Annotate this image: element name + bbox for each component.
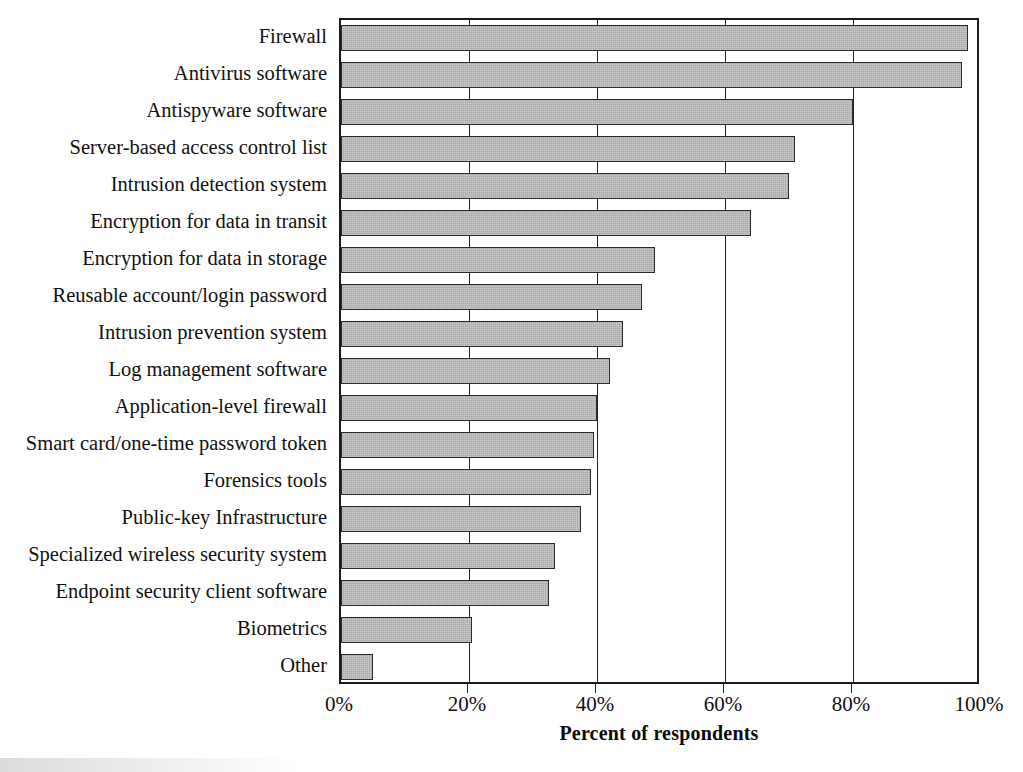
bar-row: [341, 501, 981, 538]
category-label: Other: [280, 647, 327, 684]
bar-row: [341, 353, 981, 390]
bar[interactable]: [341, 543, 555, 569]
bar-row: [341, 57, 981, 94]
bar-row: [341, 538, 981, 575]
bar-row: [341, 20, 981, 57]
category-label: Reusable account/login password: [53, 277, 327, 314]
bar-series: [341, 20, 977, 682]
category-axis-labels: FirewallAntivirus softwareAntispyware so…: [0, 18, 333, 684]
category-label: Antispyware software: [147, 92, 327, 129]
category-label: Firewall: [259, 18, 327, 55]
plot-area: [339, 18, 979, 684]
category-label: Forensics tools: [203, 462, 327, 499]
bar[interactable]: [341, 395, 597, 421]
category-label: Encryption for data in storage: [82, 240, 327, 277]
bar-row: [341, 464, 981, 501]
category-label: Intrusion prevention system: [98, 314, 327, 351]
x-tick-label: 40%: [576, 692, 615, 717]
category-label: Smart card/one-time password token: [26, 425, 327, 462]
scan-artifact: [0, 758, 300, 772]
x-tick-label: 20%: [448, 692, 487, 717]
bar[interactable]: [341, 617, 472, 643]
bar[interactable]: [341, 506, 581, 532]
chart-figure: FirewallAntivirus softwareAntispyware so…: [0, 0, 1023, 772]
bar-row: [341, 242, 981, 279]
category-label: Encryption for data in transit: [90, 203, 327, 240]
category-label: Antivirus software: [174, 55, 327, 92]
bar[interactable]: [341, 580, 549, 606]
bar-row: [341, 316, 981, 353]
x-tick-label: 80%: [832, 692, 871, 717]
bar-row: [341, 279, 981, 316]
bar-row: [341, 94, 981, 131]
x-axis-tick-labels: 0%20%40%60%80%100%: [0, 692, 1023, 722]
x-tick-label: 100%: [955, 692, 1004, 717]
bar-row: [341, 131, 981, 168]
bar[interactable]: [341, 321, 623, 347]
bar-row: [341, 168, 981, 205]
bar[interactable]: [341, 432, 594, 458]
bar-row: [341, 612, 981, 649]
bar[interactable]: [341, 173, 789, 199]
category-label: Public-key Infrastructure: [122, 499, 328, 536]
category-label: Biometrics: [237, 610, 327, 647]
category-label: Intrusion detection system: [111, 166, 327, 203]
bar[interactable]: [341, 62, 962, 88]
bar-row: [341, 205, 981, 242]
category-label: Application-level firewall: [115, 388, 327, 425]
bar[interactable]: [341, 469, 591, 495]
bar[interactable]: [341, 99, 853, 125]
bar[interactable]: [341, 247, 655, 273]
x-tick-label: 0%: [325, 692, 353, 717]
bar[interactable]: [341, 210, 751, 236]
bar-row: [341, 575, 981, 612]
category-label: Endpoint security client software: [55, 573, 327, 610]
x-axis-title: Percent of respondents: [339, 722, 979, 745]
bar-row: [341, 649, 981, 686]
category-label: Server-based access control list: [70, 129, 327, 166]
bar[interactable]: [341, 284, 642, 310]
bar[interactable]: [341, 654, 373, 680]
bar-row: [341, 390, 981, 427]
category-label: Specialized wireless security system: [28, 536, 327, 573]
category-label: Log management software: [108, 351, 327, 388]
bar[interactable]: [341, 136, 795, 162]
x-tick-label: 60%: [704, 692, 743, 717]
bar[interactable]: [341, 25, 968, 51]
bar[interactable]: [341, 358, 610, 384]
bar-row: [341, 427, 981, 464]
